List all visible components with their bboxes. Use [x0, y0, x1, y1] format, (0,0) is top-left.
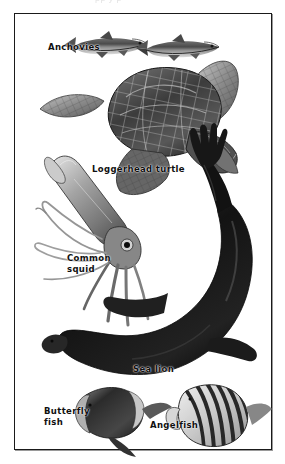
figure-anchovy-right	[136, 34, 219, 61]
label-common-squid: Common squid	[67, 253, 111, 274]
label-sea-lion: Sea lion	[133, 364, 174, 375]
cropped-caption-remnant: pp y p	[95, 0, 185, 7]
figure-angelfish	[166, 377, 272, 449]
label-butterfly-fish: Butterfly fish	[44, 406, 90, 427]
label-anchovies: Anchovies	[48, 42, 100, 53]
artwork-canvas	[14, 13, 272, 450]
illustration-plate: pp y p	[0, 0, 285, 464]
label-angelfish: Angelfish	[150, 420, 198, 431]
label-loggerhead-turtle: Loggerhead turtle	[92, 164, 185, 175]
